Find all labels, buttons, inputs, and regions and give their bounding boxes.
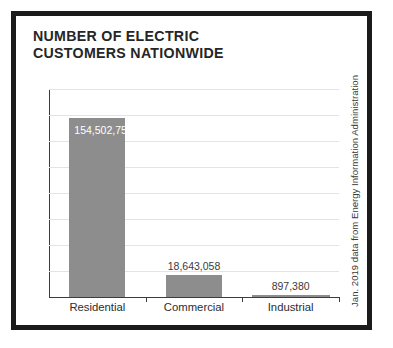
bar-value-label: 18,643,058 <box>144 260 244 272</box>
bar <box>69 118 125 297</box>
source-note-wrap: Jan. 2019 data from Energy Information A… <box>347 76 361 306</box>
picture-frame: NUMBER OF ELECTRIC CUSTOMERS NATIONWIDE … <box>11 11 372 330</box>
plot-area: 154,502,75518,643,058897,380 <box>49 89 339 297</box>
gridline <box>49 89 339 90</box>
gridline <box>49 115 339 116</box>
bar-value-label: 897,380 <box>241 280 341 292</box>
bar <box>252 295 330 298</box>
frame-inner: NUMBER OF ELECTRIC CUSTOMERS NATIONWIDE … <box>16 16 367 325</box>
bar-value-label: 154,502,755 <box>74 124 132 136</box>
chart-card: NUMBER OF ELECTRIC CUSTOMERS NATIONWIDE … <box>16 16 367 325</box>
source-note: Jan. 2019 data from Energy Information A… <box>349 75 360 307</box>
category-label: Industrial <box>231 301 351 313</box>
page-title: NUMBER OF ELECTRIC CUSTOMERS NATIONWIDE <box>33 28 333 61</box>
x-axis-line <box>49 297 339 298</box>
bar <box>166 275 222 297</box>
